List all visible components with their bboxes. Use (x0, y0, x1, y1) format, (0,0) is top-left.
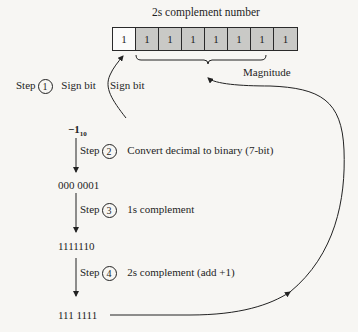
step2-description: Convert decimal to binary (7-bit) (127, 144, 273, 156)
step1-label: Step (16, 79, 36, 91)
step2: Step2 Convert decimal to binary (7-bit) (80, 144, 273, 159)
step4: Step4 2s complement (add +1) (80, 266, 235, 281)
step3: Step3 1s complement (80, 203, 194, 218)
start-value: −110 (68, 123, 87, 138)
step1-number-icon: 1 (38, 79, 53, 94)
step3-number-icon: 3 (102, 203, 117, 218)
twos-complement-value: 111 1111 (58, 309, 97, 321)
step4-label: Step (80, 266, 100, 278)
ones-complement-value: 1111110 (58, 240, 94, 252)
result-to-magnitude-arrow (110, 292, 290, 315)
start-value-number: −1 (68, 123, 80, 135)
step1: Step1 Sign bit (16, 79, 96, 94)
magnitude-brace (136, 55, 266, 64)
step2-label: Step (80, 144, 100, 156)
step4-description: 2s complement (add +1) (127, 266, 234, 278)
step2-number-icon: 2 (102, 144, 117, 159)
diagram-lines (0, 0, 358, 332)
step3-description: 1s complement (127, 203, 194, 215)
start-value-base: 10 (80, 130, 87, 138)
step3-label: Step (80, 203, 100, 215)
binary-value: 000 0001 (58, 179, 99, 191)
step4-number-icon: 4 (102, 266, 117, 281)
step1-description: Sign bit (61, 79, 96, 91)
sign-bit-label: Sign bit (110, 79, 145, 92)
